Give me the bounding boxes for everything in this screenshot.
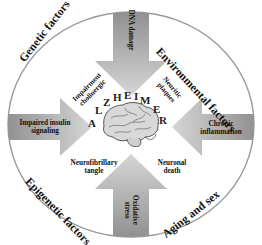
arrow-label-insulin-line1: Impaired insulin [6, 119, 84, 127]
inner-label-neurofibrillary-line2: tangle [62, 167, 126, 175]
inner-label-neuronal-line1: Neuronal [150, 159, 194, 167]
title-letter-l: L [95, 104, 102, 116]
arrow-label-inflammation-line2: inflammation [184, 128, 258, 136]
arrow-label-dna-damage: DNA damage [127, 0, 135, 60]
title-letter-a: A [88, 117, 96, 129]
arrow-label-oxidative: Oxidative stress [123, 185, 140, 235]
inner-label-neurofibrillary-line1: Neurofibrillary [62, 159, 126, 167]
title-letter-r: R [159, 114, 167, 126]
title-letter-m: M [140, 94, 150, 106]
arrow-label-oxidative-line1: Oxidative [131, 185, 139, 235]
title-letter-i: I [134, 90, 138, 102]
arrow-label-oxidative-line2: stress [123, 185, 131, 235]
arrow-label-insulin: Impaired insulin signaling [6, 119, 84, 136]
inner-label-neuronal-death: Neuronal death [150, 159, 194, 176]
alzheimer-factors-diagram: A L Z H E I M E R Genetic factors Enviro… [0, 0, 262, 245]
title-letter-e1: E [124, 89, 131, 101]
arrow-label-insulin-line2: signaling [6, 127, 84, 135]
inner-label-neurofibrillary: Neurofibrillary tangle [62, 159, 126, 176]
title-letter-h: H [113, 91, 122, 103]
arrow-label-inflammation: Chronic inflammation [184, 120, 258, 137]
arrow-label-inflammation-line1: Chronic [184, 120, 258, 128]
inner-label-neuronal-line2: death [150, 167, 194, 175]
title-letter-z: Z [103, 96, 110, 108]
